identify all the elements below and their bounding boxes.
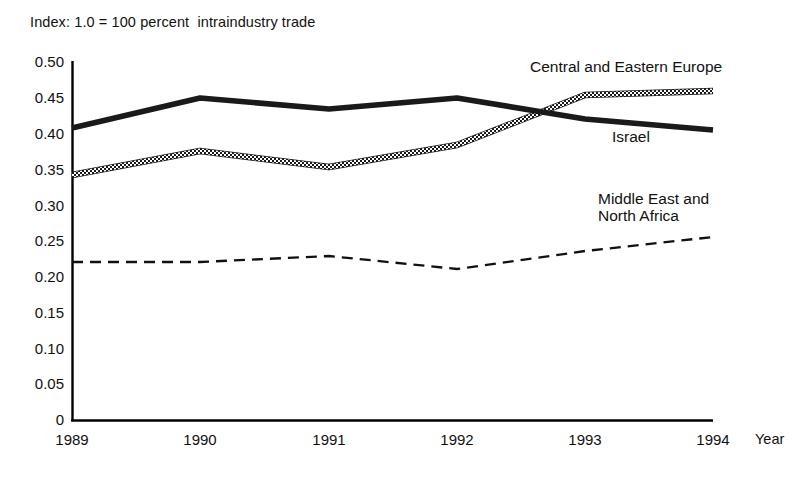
series-annotation-central-eastern-europe: Central and Eastern Europe (530, 58, 722, 75)
ytick-label-0.30: 0.30 (12, 197, 64, 214)
mena-label-line-2: North Africa (598, 207, 679, 224)
ytick-label-0.20: 0.20 (12, 268, 64, 285)
xtick-label-1990: 1990 (165, 431, 235, 448)
chart-figure: Index: 1.0 = 100 percent intraindustry t… (0, 0, 811, 479)
ytick-label-0.25: 0.25 (12, 232, 64, 249)
xtick-label-1989: 1989 (37, 431, 107, 448)
ytick-label-0.05: 0.05 (12, 375, 64, 392)
xtick-label-1991: 1991 (294, 431, 364, 448)
mena-label-line-1: Middle East and (598, 190, 709, 207)
ytick-label-0.50: 0.50 (12, 53, 64, 70)
series-annotation-israel: Israel (612, 128, 650, 145)
series-line-middle-east-north-africa (72, 237, 713, 269)
x-axis-label: Year (755, 431, 784, 447)
ytick-label-0.35: 0.35 (12, 161, 64, 178)
xtick-label-1993: 1993 (550, 431, 620, 448)
ytick-label-0: 0 (12, 411, 64, 428)
axis-lines (71, 61, 713, 421)
xtick-label-1992: 1992 (422, 431, 492, 448)
ytick-label-0.10: 0.10 (12, 340, 64, 357)
ytick-label-0.45: 0.45 (12, 89, 64, 106)
series-annotation-middle-east-north-africa: Middle East andNorth Africa (598, 190, 709, 224)
series-line-israel (72, 98, 713, 130)
ytick-label-0.15: 0.15 (12, 304, 64, 321)
ytick-label-0.40: 0.40 (12, 125, 64, 142)
xtick-label-1994: 1994 (678, 431, 748, 448)
